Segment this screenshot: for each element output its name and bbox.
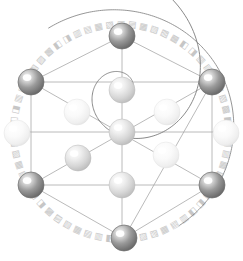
node-lower-center bbox=[109, 172, 135, 198]
rune-glyph: ▩ bbox=[221, 104, 233, 114]
node-bottom-right bbox=[199, 172, 225, 198]
node-inner-right bbox=[153, 142, 179, 168]
rune-glyph: ▨ bbox=[218, 93, 230, 104]
rune-glyph: ▦ bbox=[71, 224, 83, 237]
node-bottom bbox=[111, 225, 137, 251]
diagram-canvas: ▥▤▦▧▨▩◧◨▥▤▦▧▨▩◧◨▥▤▦▧▨▩◧◨▥▤▦▧▨▩◧◨▥▤▦▧▨▩◧◨… bbox=[0, 0, 243, 261]
node-ring-left bbox=[4, 120, 30, 146]
node-inner-upper-left bbox=[64, 99, 90, 125]
rune-glyph: ▤ bbox=[82, 23, 93, 35]
node-inner-left bbox=[65, 145, 91, 171]
rune-glyph: ▥ bbox=[12, 93, 24, 104]
rune-glyph: ▦ bbox=[12, 160, 24, 171]
node-upper-center bbox=[109, 77, 135, 103]
rune-glyph: ▥ bbox=[93, 232, 103, 244]
node-center bbox=[109, 119, 135, 145]
rune-glyph: ◨ bbox=[10, 104, 22, 114]
rune-glyph: ▨ bbox=[159, 27, 171, 40]
rune-glyph: ▤ bbox=[82, 229, 93, 241]
node-top bbox=[109, 23, 135, 49]
rune-glyph: ▨ bbox=[138, 232, 148, 244]
rune-glyph: ◨ bbox=[61, 32, 73, 45]
rune-glyph: ▧ bbox=[10, 149, 22, 159]
rune-glyph: ▥ bbox=[71, 27, 83, 40]
node-bottom-left bbox=[18, 172, 44, 198]
rune-glyph: ▦ bbox=[138, 21, 148, 33]
node-top-left bbox=[18, 69, 44, 95]
node-ring-right bbox=[213, 120, 239, 146]
sacred-geometry-diagram: ▥▤▦▧▨▩◧◨▥▤▦▧▨▩◧◨▥▤▦▧▨▩◧◨▥▤▦▧▨▩◧◨▥▤▦▧▨▩◧◨… bbox=[0, 0, 243, 261]
node-top-right bbox=[199, 69, 225, 95]
rune-glyph: ▧ bbox=[149, 229, 160, 241]
rune-glyph: ▦ bbox=[93, 21, 103, 33]
rune-glyph: ▧ bbox=[149, 23, 160, 35]
rune-glyph: ▦ bbox=[159, 224, 171, 237]
node-inner-upper-right bbox=[154, 99, 180, 125]
